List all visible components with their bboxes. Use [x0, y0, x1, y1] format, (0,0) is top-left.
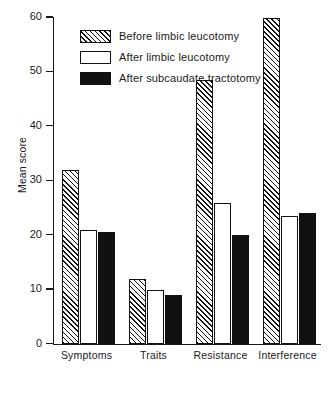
- y-tick-40: [46, 125, 53, 126]
- y-tick-label: 20: [2, 229, 42, 240]
- bar-chart: Mean score 0102030405060 Before limbic l…: [0, 9, 336, 399]
- y-tick-label: 40: [2, 120, 42, 131]
- y-tick-label: 60: [2, 11, 42, 22]
- y-tick-label: 0: [2, 338, 42, 349]
- bar: [165, 295, 183, 344]
- bar: [98, 232, 116, 344]
- bar: [80, 230, 98, 344]
- bar: [263, 18, 281, 345]
- y-tick-60: [46, 16, 53, 17]
- bar: [62, 170, 80, 344]
- y-tick-label: 10: [2, 283, 42, 294]
- bar: [232, 235, 250, 344]
- y-tick-0: [46, 343, 53, 344]
- cropped-header-strip: with 4 and 4 of the it is their case it …: [0, 0, 336, 9]
- y-tick-label: 50: [2, 65, 42, 76]
- y-tick-label: 30: [2, 174, 42, 185]
- y-tick-10: [46, 288, 53, 289]
- bar: [281, 216, 299, 344]
- y-tick-30: [46, 180, 53, 181]
- bar: [147, 290, 165, 344]
- y-tick-20: [46, 234, 53, 235]
- bar: [196, 80, 214, 344]
- y-tick-50: [46, 71, 53, 72]
- cropped-header-text: with 4 and 4 of the it is their case it …: [4, 0, 323, 2]
- x-axis-category-label: Interference: [248, 349, 327, 361]
- bar: [129, 279, 147, 344]
- bar-area: [53, 9, 321, 344]
- bar: [299, 213, 317, 344]
- bar: [214, 203, 232, 344]
